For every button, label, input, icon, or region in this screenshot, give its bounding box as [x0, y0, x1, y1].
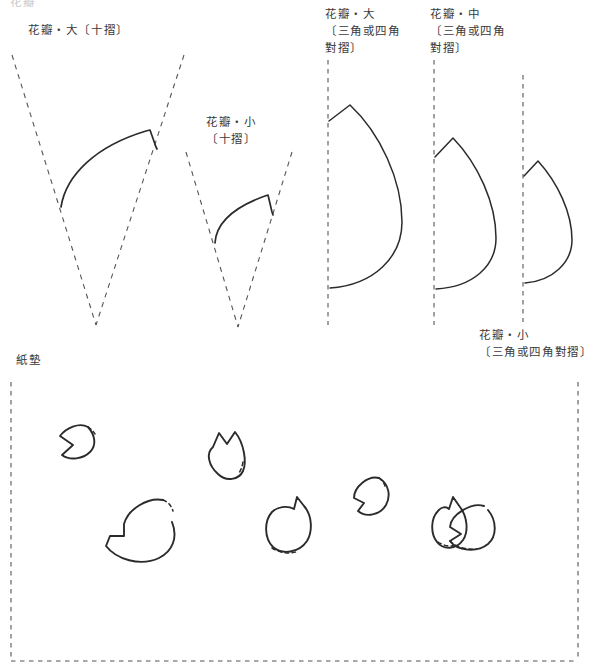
figure-petal-medium-tri-quad — [434, 60, 496, 325]
label-petal-large-tri-quad-fold-line: 花瓣・大 — [325, 6, 401, 23]
cut-line — [329, 105, 402, 288]
fold-line-right — [96, 55, 184, 325]
mat-petal-2 — [209, 432, 245, 479]
label-paper-mat-line: 紙墊 — [16, 352, 41, 369]
label-petal-large-ten-fold-line: 花瓣・大〔十摺〕 — [28, 22, 129, 39]
label-top-cropped-line: 花瓣 — [10, 0, 35, 11]
figure-petal-small-tri-quad — [523, 75, 572, 322]
petal-cut-outline — [106, 500, 174, 562]
cut-line — [435, 138, 496, 289]
petal-cut-outline — [432, 497, 466, 548]
label-petal-small-ten-fold: 花瓣・小〔十摺〕 — [206, 114, 256, 148]
label-petal-large-tri-quad-fold-line: 對摺〕 — [325, 40, 401, 57]
fold-line-left — [186, 152, 238, 327]
label-petal-medium-tri-quad-fold-line: 花瓣・中 — [430, 6, 506, 23]
fold-line-right — [238, 152, 292, 327]
petal-cut-outline — [60, 425, 94, 458]
label-petal-small-tri-quad-fold: 花瓣・小〔三角或四角對摺〕 — [479, 327, 592, 361]
mat-petal-group — [60, 425, 495, 562]
label-petal-small-ten-fold-line: 花瓣・小 — [206, 114, 256, 131]
figure-petal-large-ten-fold — [12, 55, 184, 325]
label-petal-large-ten-fold: 花瓣・大〔十摺〕 — [28, 22, 129, 39]
label-petal-medium-tri-quad-fold-line: 對摺〕 — [430, 40, 506, 57]
label-petal-large-tri-quad-fold-line: 〔三角或四角 — [325, 23, 401, 40]
cut-line — [215, 195, 273, 243]
label-petal-small-tri-quad-fold-line: 花瓣・小 — [479, 327, 592, 344]
label-paper-mat: 紙墊 — [16, 352, 41, 369]
cut-line — [61, 130, 157, 207]
mat-petal-6 — [432, 497, 466, 548]
figure-petal-large-tri-quad — [328, 60, 402, 325]
label-petal-large-tri-quad-fold: 花瓣・大〔三角或四角對摺〕 — [325, 6, 401, 57]
petal-cut-outline — [266, 497, 311, 552]
mat-petal-1 — [60, 425, 95, 458]
fold-line-left — [12, 55, 96, 325]
label-petal-medium-tri-quad-fold-line: 〔三角或四角 — [430, 23, 506, 40]
label-top-cropped: 花瓣 — [10, 0, 35, 11]
mat-petal-3 — [106, 500, 174, 562]
petal-fold-edge — [163, 500, 173, 511]
label-petal-small-tri-quad-fold-line: 〔三角或四角對摺〕 — [479, 344, 592, 361]
pattern-sheet-page: 花瓣・大〔十摺〕花瓣・小〔十摺〕花瓣・大〔三角或四角對摺〕花瓣・中〔三角或四角對… — [0, 0, 605, 666]
figure-paper-mat — [11, 382, 578, 661]
mat-petal-5 — [354, 478, 389, 515]
label-petal-small-ten-fold-line: 〔十摺〕 — [206, 131, 256, 148]
mat-petal-4 — [266, 497, 311, 553]
mat-petal-7 — [450, 505, 495, 550]
cut-line — [524, 161, 572, 283]
petal-cut-outline — [450, 505, 495, 550]
figure-petal-small-ten-fold — [186, 152, 292, 327]
label-petal-medium-tri-quad-fold: 花瓣・中〔三角或四角對摺〕 — [430, 6, 506, 57]
